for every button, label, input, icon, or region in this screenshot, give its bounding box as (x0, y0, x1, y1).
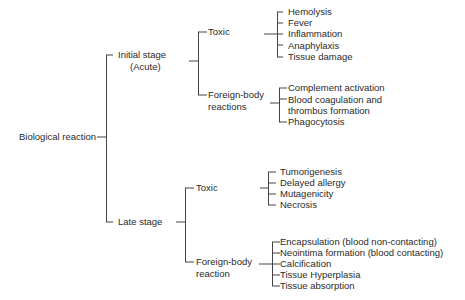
root-node: Biological reaction (19, 131, 96, 143)
item-neointima-formation: Neointima formation (blood contacting) (280, 247, 443, 259)
stage-late-label: Late stage (118, 216, 162, 228)
initial-toxic-label: Toxic (208, 26, 230, 38)
item-hemolysis: Hemolysis (288, 6, 332, 18)
item-tissue-hyperplasia: Tissue Hyperplasia (280, 269, 360, 281)
item-complement-activation: Complement activation (288, 82, 385, 94)
item-tumorigenesis: Tumorigenesis (280, 166, 342, 178)
item-tissue-damage: Tissue damage (288, 51, 353, 63)
late-foreign-body-label-line2: reaction (196, 268, 230, 280)
stage-initial-sublabel: (Acute) (130, 61, 161, 73)
item-necrosis: Necrosis (280, 199, 317, 211)
item-thrombus-formation: thrombus formation (288, 105, 370, 117)
item-fever: Fever (288, 17, 312, 29)
late-toxic-label: Toxic (196, 182, 218, 194)
item-blood-coagulation: Blood coagulation and (288, 94, 382, 106)
item-tissue-absorption: Tissue absorption (280, 280, 355, 292)
item-inflammation: Inflammation (288, 28, 342, 40)
initial-foreign-body-label-line2: reactions (208, 101, 247, 113)
item-anaphylaxis: Anaphylaxis (288, 40, 339, 52)
late-foreign-body-label: Foreign-body (196, 256, 252, 268)
stage-initial-label: Initial stage (118, 49, 166, 61)
item-encapsulation: Encapsulation (blood non-contacting) (280, 236, 437, 248)
item-calcification: Calcification (280, 258, 331, 270)
item-phagocytosis: Phagocytosis (288, 116, 345, 128)
initial-foreign-body-label: Foreign-body (208, 89, 264, 101)
item-mutagenicity: Mutagenicity (280, 188, 333, 200)
item-delayed-allergy: Delayed allergy (280, 177, 345, 189)
